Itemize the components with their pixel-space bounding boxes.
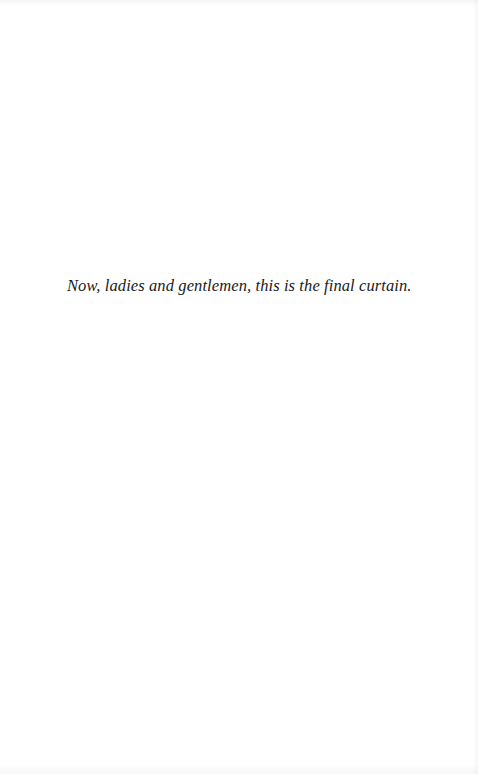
scan-edge-bottom <box>0 764 478 774</box>
book-page: Now, ladies and gentlemen, this is the f… <box>0 0 478 774</box>
scan-edge-right <box>472 0 478 774</box>
epigraph-text: Now, ladies and gentlemen, this is the f… <box>67 275 412 297</box>
scan-edge-top <box>0 0 478 6</box>
